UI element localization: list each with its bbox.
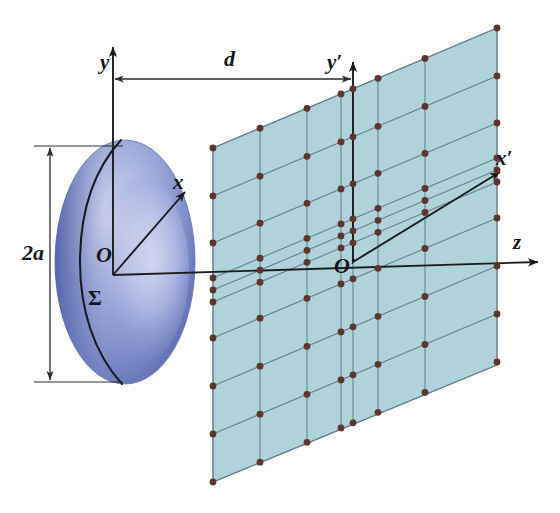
grid-sample-point xyxy=(257,459,264,466)
grid-sample-point xyxy=(350,323,357,330)
grid-sample-point xyxy=(494,73,501,80)
grid-sample-point xyxy=(422,185,429,192)
grid-sample-point xyxy=(375,361,382,368)
grid-sample-point xyxy=(375,409,382,416)
grid-sample-point xyxy=(375,217,382,224)
grid-sample-point xyxy=(257,279,264,286)
grid-sample-point xyxy=(494,120,501,127)
grid-sample-point xyxy=(257,411,264,418)
grid-sample-point xyxy=(304,247,311,254)
diagram-svg xyxy=(0,0,560,513)
label-y-prime-axis: y′ xyxy=(327,52,342,73)
grid-sample-point xyxy=(257,125,264,132)
label-x-axis: x xyxy=(173,172,184,193)
grid-sample-point xyxy=(375,123,382,130)
grid-sample-point xyxy=(375,265,382,272)
grid-sample-point xyxy=(210,275,217,282)
grid-sample-point xyxy=(338,245,345,252)
grid-sample-point xyxy=(257,315,264,322)
grid-sample-point xyxy=(257,363,264,370)
grid-sample-point xyxy=(422,150,429,157)
grid-sample-point xyxy=(338,139,345,146)
grid-sample-point xyxy=(257,255,264,262)
label-origin-O-prime: O′ xyxy=(334,255,356,277)
grid-sample-point xyxy=(494,179,501,186)
grid-sample-point xyxy=(210,431,217,438)
grid-sample-point xyxy=(338,186,345,193)
grid-sample-point xyxy=(350,85,357,92)
grid-sample-point xyxy=(422,341,429,348)
grid-sample-point xyxy=(350,419,357,426)
grid-sample-point xyxy=(375,313,382,320)
grid-sample-point xyxy=(494,25,501,32)
grid-sample-point xyxy=(375,205,382,212)
grid-sample-point xyxy=(350,239,357,246)
grid-sample-point xyxy=(304,439,311,446)
grid-sample-point xyxy=(338,377,345,384)
grid-sample-point xyxy=(210,240,217,247)
grid-sample-point xyxy=(422,103,429,110)
grid-sample-point xyxy=(210,383,217,390)
grid-sample-point xyxy=(338,233,345,240)
grid-sample-point xyxy=(210,287,217,294)
grid-sample-point xyxy=(422,245,429,252)
grid-sample-point xyxy=(304,153,311,160)
grid-sample-point xyxy=(257,220,264,227)
label-x-prime-axis: x′ xyxy=(496,148,512,169)
grid-sample-point xyxy=(338,281,345,288)
grid-sample-point xyxy=(350,215,357,222)
grid-sample-point xyxy=(350,180,357,187)
grid-sample-point xyxy=(304,235,311,242)
label-diameter-2a: 2a xyxy=(22,242,44,264)
grid-sample-point xyxy=(422,293,429,300)
label-z-axis: z xyxy=(513,232,521,253)
label-y-axis: y xyxy=(100,52,109,73)
grid-sample-point xyxy=(210,479,217,486)
grid-sample-point xyxy=(494,359,501,366)
grid-sample-point xyxy=(494,263,501,270)
grid-sample-point xyxy=(338,91,345,98)
grid-sample-point xyxy=(304,343,311,350)
grid-sample-point xyxy=(375,170,382,177)
grid-sample-point xyxy=(422,55,429,62)
grid-sample-point xyxy=(422,209,429,216)
grid-sample-point xyxy=(210,145,217,152)
grid-sample-point xyxy=(257,173,264,180)
grid-sample-point xyxy=(304,391,311,398)
grid-sample-point xyxy=(304,200,311,207)
label-sigma-surface: Σ xyxy=(88,288,102,309)
grid-sample-point xyxy=(422,389,429,396)
grid-sample-point xyxy=(210,335,217,342)
grid-sample-point xyxy=(375,229,382,236)
grid-sample-point xyxy=(375,75,382,82)
grid-sample-point xyxy=(257,267,264,274)
figure-canvas: y y′ x x′ z O O′ Σ 2a d xyxy=(0,0,560,513)
label-distance-d: d xyxy=(224,48,235,70)
grid-sample-point xyxy=(350,227,357,234)
grid-sample-point xyxy=(338,329,345,336)
grid-sample-point xyxy=(422,197,429,204)
grid-sample-point xyxy=(494,215,501,222)
grid-sample-point xyxy=(338,221,345,228)
grid-sample-point xyxy=(304,105,311,112)
label-origin-O: O xyxy=(96,244,112,266)
grid-sample-point xyxy=(494,311,501,318)
grid-sample-point xyxy=(304,295,311,302)
grid-sample-point xyxy=(304,259,311,266)
grid-sample-point xyxy=(210,299,217,306)
grid-sample-point xyxy=(350,371,357,378)
grid-sample-point xyxy=(350,133,357,140)
grid-sample-point xyxy=(338,425,345,432)
grid-sample-point xyxy=(210,193,217,200)
